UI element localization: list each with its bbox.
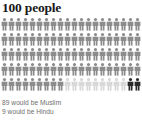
person-icon — [64, 17, 71, 32]
person-icon — [99, 77, 106, 92]
person-icon — [15, 77, 22, 92]
person-icon — [29, 77, 36, 92]
pictogram-row — [1, 17, 142, 32]
person-icon — [127, 47, 134, 62]
person-icon — [43, 47, 50, 62]
person-icon — [127, 17, 134, 32]
person-icon — [92, 77, 99, 92]
person-icon — [64, 62, 71, 77]
person-icon — [134, 77, 141, 92]
person-icon — [106, 62, 113, 77]
person-icon — [50, 77, 57, 92]
person-icon — [85, 32, 92, 47]
person-icon — [64, 77, 71, 92]
person-icon — [78, 62, 85, 77]
person-icon — [113, 77, 120, 92]
person-icon — [92, 62, 99, 77]
person-icon — [71, 47, 78, 62]
person-icon — [22, 47, 29, 62]
person-icon — [57, 77, 64, 92]
person-icon — [29, 62, 36, 77]
pictogram-row — [1, 77, 142, 92]
person-icon — [85, 62, 92, 77]
person-icon — [29, 17, 36, 32]
person-icon — [85, 47, 92, 62]
person-icon — [99, 17, 106, 32]
person-icon — [120, 17, 127, 32]
person-icon — [78, 32, 85, 47]
person-icon — [50, 47, 57, 62]
person-icon — [127, 32, 134, 47]
person-icon — [57, 47, 64, 62]
person-icon — [106, 32, 113, 47]
person-icon — [57, 32, 64, 47]
person-icon — [134, 62, 141, 77]
person-icon — [78, 77, 85, 92]
person-icon — [106, 77, 113, 92]
person-icon — [92, 32, 99, 47]
person-icon — [43, 17, 50, 32]
person-icon — [71, 77, 78, 92]
person-icon — [43, 77, 50, 92]
pictogram-row — [1, 62, 142, 77]
person-icon — [120, 47, 127, 62]
person-icon — [50, 62, 57, 77]
person-icon — [99, 47, 106, 62]
person-icon — [50, 17, 57, 32]
person-icon — [1, 62, 8, 77]
person-icon — [8, 77, 15, 92]
person-icon — [64, 47, 71, 62]
person-icon — [57, 17, 64, 32]
person-icon — [71, 32, 78, 47]
person-icon — [134, 32, 141, 47]
person-icon — [64, 32, 71, 47]
pictogram-infographic: 100 people 89 would be Muslim 9 would be… — [0, 0, 142, 121]
person-icon — [43, 32, 50, 47]
person-icon — [134, 47, 141, 62]
person-icon — [134, 17, 141, 32]
person-icon — [8, 62, 15, 77]
person-icon — [8, 32, 15, 47]
person-icon — [29, 32, 36, 47]
caption-line-muslim: 89 would be Muslim — [2, 99, 140, 108]
caption-block: 89 would be Muslim 9 would be Hindu — [2, 99, 140, 116]
person-icon — [85, 17, 92, 32]
person-icon — [36, 32, 43, 47]
person-icon — [1, 77, 8, 92]
person-icon — [29, 47, 36, 62]
person-icon — [36, 47, 43, 62]
person-icon — [15, 62, 22, 77]
person-icon — [113, 32, 120, 47]
person-icon — [1, 47, 8, 62]
person-icon — [1, 17, 8, 32]
pictogram-row — [1, 47, 142, 62]
person-icon — [85, 77, 92, 92]
caption-line-hindu: 9 would be Hindu — [2, 108, 140, 117]
person-icon — [106, 17, 113, 32]
person-icon — [113, 47, 120, 62]
person-icon — [127, 62, 134, 77]
person-icon — [8, 17, 15, 32]
person-icon — [22, 17, 29, 32]
person-icon — [113, 17, 120, 32]
person-icon — [15, 17, 22, 32]
person-icon — [99, 32, 106, 47]
person-icon — [120, 32, 127, 47]
person-icon — [113, 62, 120, 77]
pictogram-grid — [1, 17, 142, 92]
person-icon — [36, 77, 43, 92]
person-icon — [120, 77, 127, 92]
person-icon — [106, 47, 113, 62]
person-icon — [92, 47, 99, 62]
person-icon — [36, 62, 43, 77]
page-title: 100 people — [2, 0, 61, 16]
person-icon — [92, 17, 99, 32]
person-icon — [22, 77, 29, 92]
person-icon — [71, 17, 78, 32]
person-icon — [8, 47, 15, 62]
person-icon — [1, 32, 8, 47]
person-icon — [15, 47, 22, 62]
person-icon — [15, 32, 22, 47]
person-icon — [22, 62, 29, 77]
person-icon — [78, 47, 85, 62]
